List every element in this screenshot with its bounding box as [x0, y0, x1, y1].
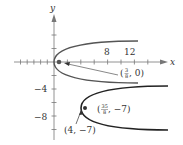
y-tick-label-neg4: −4 — [34, 84, 48, 94]
x-axis-label: x — [170, 57, 175, 67]
focus-2-denominator: 8 — [103, 109, 106, 115]
focus-1-arrow-icon — [64, 62, 70, 66]
focus-2-point — [83, 106, 87, 110]
y-tick-label-neg8: −8 — [34, 112, 48, 122]
focus-2-label: ( — [97, 104, 101, 114]
y-axis-label: y — [49, 3, 56, 13]
focus-1-pointer — [68, 64, 118, 75]
focus-1-label: ( — [120, 68, 124, 78]
x-tick-label-8: 8 — [104, 47, 110, 57]
chart: y x 8 12 −4 −8 ( 3 8 , 0) ( 35 8 , −7) (… — [0, 0, 183, 145]
x-axis-arrow-icon — [160, 60, 168, 65]
x-tick-label-12: 12 — [124, 47, 135, 57]
y-axis-arrow-icon — [52, 14, 57, 22]
focus-2-label-rest: , −7) — [108, 104, 131, 114]
focus-1-point — [57, 60, 62, 65]
focus-1-label-rest: , 0) — [129, 68, 144, 78]
vertex-2-label: (4, −7) — [64, 125, 96, 135]
focus-1-denominator: 8 — [125, 73, 128, 79]
